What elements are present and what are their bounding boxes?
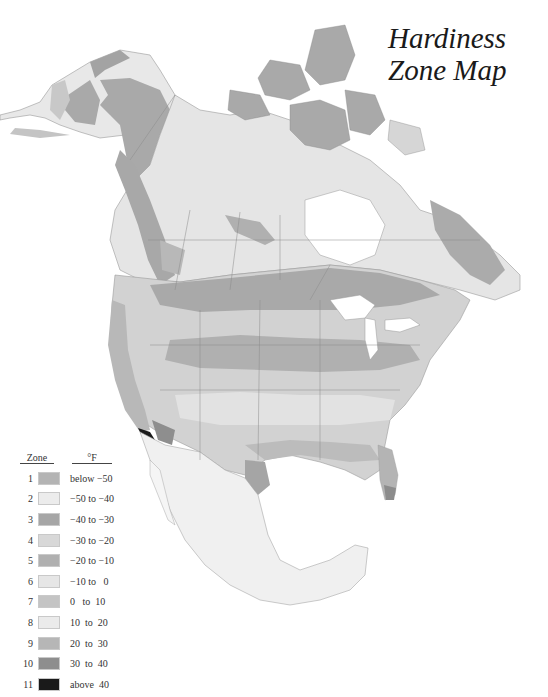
- legend-row-zone-7: 7 0 to 10: [14, 592, 144, 613]
- legend-swatch: [38, 616, 60, 629]
- legend-row-zone-4: 4 −30 to −20: [14, 530, 144, 551]
- legend-swatch: [38, 492, 60, 505]
- legend-swatch: [38, 657, 60, 670]
- legend-temp-range: below −50: [70, 473, 113, 484]
- legend-swatch: [38, 637, 60, 650]
- legend-temp-range: above 40: [70, 679, 109, 690]
- legend-header: Zone °F: [14, 448, 144, 464]
- legend-swatch: [38, 678, 60, 691]
- zone-legend: Zone °F 1 below −50 2 −50 to −40 3 −40 t…: [14, 448, 144, 695]
- legend-row-zone-9: 9 20 to 30: [14, 633, 144, 654]
- legend-row-zone-10: 10 30 to 40: [14, 653, 144, 674]
- legend-swatch: [38, 554, 60, 567]
- legend-temp-range: −50 to −40: [70, 493, 114, 504]
- legend-zone-number: 7: [14, 596, 38, 607]
- legend-zone-number: 8: [14, 617, 38, 628]
- legend-swatch: [38, 534, 60, 547]
- legend-zone-number: 5: [14, 555, 38, 566]
- legend-zone-number: 4: [14, 535, 38, 546]
- legend-row-zone-5: 5 −20 to −10: [14, 550, 144, 571]
- legend-zone-number: 1: [14, 473, 38, 484]
- legend-row-zone-2: 2 −50 to −40: [14, 489, 144, 510]
- legend-row-zone-3: 3 −40 to −30: [14, 509, 144, 530]
- map-title-line2: Zone Map: [388, 54, 506, 86]
- legend-header-temp: °F: [72, 452, 112, 464]
- legend-row-zone-11: 11 above 40: [14, 674, 144, 695]
- legend-zone-number: 10: [14, 658, 38, 669]
- legend-temp-range: 0 to 10: [70, 596, 105, 607]
- legend-temp-range: −30 to −20: [70, 535, 114, 546]
- legend-temp-range: −40 to −30: [70, 514, 114, 525]
- legend-zone-number: 6: [14, 576, 38, 587]
- legend-row-zone-6: 6 −10 to 0: [14, 571, 144, 592]
- legend-temp-range: −10 to 0: [70, 576, 108, 587]
- legend-swatch: [38, 472, 60, 485]
- legend-swatch: [38, 595, 60, 608]
- legend-swatch: [38, 513, 60, 526]
- legend-rows: 1 below −50 2 −50 to −40 3 −40 to −30 4 …: [14, 468, 144, 695]
- legend-temp-range: 10 to 20: [70, 617, 108, 628]
- legend-row-zone-8: 8 10 to 20: [14, 612, 144, 633]
- legend-zone-number: 3: [14, 514, 38, 525]
- legend-temp-range: 30 to 40: [70, 658, 108, 669]
- legend-temp-range: 20 to 30: [70, 638, 108, 649]
- legend-header-zone: Zone: [20, 452, 54, 464]
- map-title: Hardiness Zone Map: [388, 22, 506, 86]
- legend-zone-number: 9: [14, 638, 38, 649]
- map-title-line1: Hardiness: [388, 22, 506, 54]
- legend-temp-range: −20 to −10: [70, 555, 114, 566]
- legend-zone-number: 2: [14, 493, 38, 504]
- legend-zone-number: 11: [14, 679, 38, 690]
- legend-swatch: [38, 575, 60, 588]
- legend-row-zone-1: 1 below −50: [14, 468, 144, 489]
